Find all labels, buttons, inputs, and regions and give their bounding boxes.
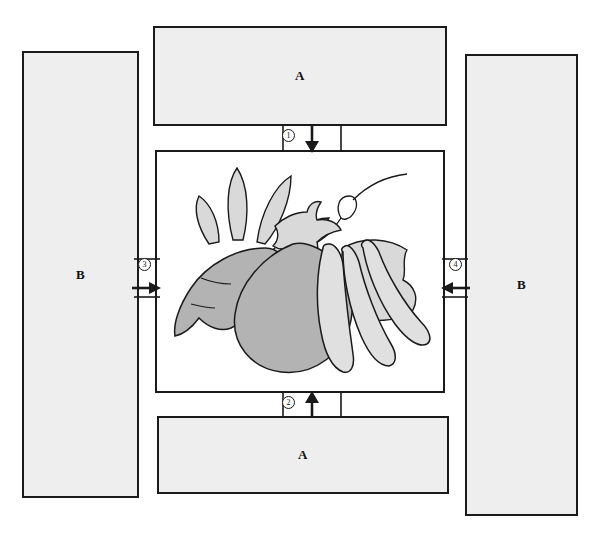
box-b-right[interactable]: B	[465, 54, 578, 516]
connector-4: 4	[440, 258, 470, 298]
connector-3: 3	[132, 258, 162, 298]
connector-2-marker: 2	[282, 396, 295, 409]
connector-3-marker: 3	[138, 258, 151, 271]
box-a-bottom[interactable]: A	[157, 416, 449, 494]
box-b-right-label: B	[517, 277, 526, 293]
box-a-bottom-label: A	[298, 447, 308, 463]
vegetable-illustration	[157, 152, 443, 391]
connector-1: 1	[282, 124, 342, 154]
box-a-top-label: A	[295, 68, 305, 84]
box-a-top[interactable]: A	[153, 26, 447, 126]
box-b-left-label: B	[76, 267, 85, 283]
connector-4-marker: 4	[449, 258, 462, 271]
box-b-left[interactable]: B	[22, 51, 139, 498]
image-frame[interactable]	[155, 150, 445, 393]
connector-1-marker: 1	[282, 129, 295, 142]
diagram-canvas: A A B B	[0, 0, 600, 539]
connector-2: 2	[282, 390, 342, 420]
